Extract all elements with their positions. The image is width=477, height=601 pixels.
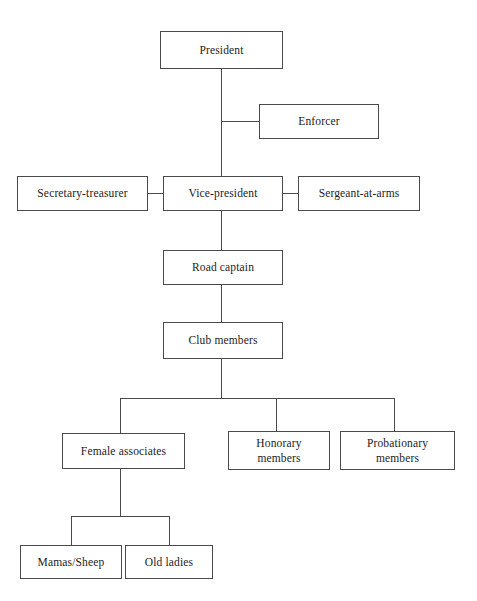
node-road-captain[interactable]: Road captain (163, 250, 283, 285)
node-mamas-sheep[interactable]: Mamas/Sheep (20, 545, 122, 579)
node-secretary-treasurer-label: Secretary-treasurer (37, 186, 127, 201)
node-old-ladies-label: Old ladies (145, 555, 193, 570)
node-honorary-members[interactable]: Honorary members (228, 431, 330, 470)
node-female-associates[interactable]: Female associates (62, 433, 185, 469)
node-secretary-treasurer[interactable]: Secretary-treasurer (17, 176, 148, 211)
node-probationary-members[interactable]: Probationary members (340, 431, 455, 470)
node-president[interactable]: President (160, 31, 283, 69)
node-enforcer-label: Enforcer (298, 114, 339, 129)
node-mamas-sheep-label: Mamas/Sheep (38, 555, 105, 570)
node-honorary-members-label: Honorary members (256, 436, 301, 465)
node-sergeant-at-arms-label: Sergeant-at-arms (319, 186, 400, 201)
node-female-associates-label: Female associates (81, 444, 166, 459)
node-vice-president-label: Vice-president (188, 186, 257, 201)
node-sergeant-at-arms[interactable]: Sergeant-at-arms (298, 176, 420, 211)
node-probationary-members-label: Probationary members (367, 436, 428, 465)
node-old-ladies[interactable]: Old ladies (125, 545, 213, 579)
node-club-members[interactable]: Club members (163, 322, 283, 359)
org-chart-canvas: President Enforcer Secretary-treasurer V… (0, 0, 477, 601)
node-president-label: President (199, 43, 243, 58)
connector-lines (0, 0, 477, 601)
node-vice-president[interactable]: Vice-president (163, 176, 283, 211)
node-club-members-label: Club members (188, 333, 257, 348)
node-enforcer[interactable]: Enforcer (259, 104, 379, 139)
node-road-captain-label: Road captain (192, 260, 254, 275)
